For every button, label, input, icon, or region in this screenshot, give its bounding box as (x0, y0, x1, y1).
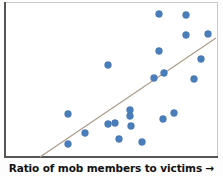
data-point (171, 110, 178, 117)
data-point (105, 121, 112, 128)
data-points (65, 11, 212, 148)
data-point (191, 76, 198, 83)
trendline-segment (40, 38, 216, 157)
data-point (183, 32, 190, 39)
data-point (112, 120, 119, 127)
data-point (151, 75, 158, 82)
x-axis-label-row: Ratio of mob members to victims → (0, 159, 223, 176)
data-point (183, 12, 190, 19)
scatter-canvas (0, 0, 223, 176)
data-point (105, 62, 112, 69)
trendline (40, 38, 216, 157)
scatter-plot-figure: Ratio of mob members to victims → (0, 0, 223, 176)
data-point (139, 139, 146, 146)
data-point (156, 11, 163, 18)
data-point (65, 111, 72, 118)
data-point (82, 130, 89, 137)
data-point (116, 136, 123, 143)
data-point (205, 31, 212, 38)
data-point (160, 116, 167, 123)
data-point (127, 113, 134, 120)
x-axis-label: Ratio of mob members to victims → (9, 162, 215, 174)
data-point (198, 56, 205, 63)
data-point (161, 70, 168, 77)
data-point (128, 123, 135, 130)
data-point (156, 48, 163, 55)
data-point (65, 141, 72, 148)
